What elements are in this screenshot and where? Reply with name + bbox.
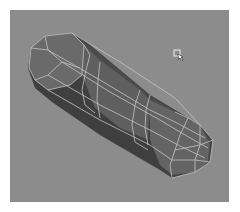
arrow-pointer-icon: [173, 49, 185, 61]
3d-viewport[interactable]: [10, 10, 229, 202]
capsule-mesh[interactable]: [10, 10, 229, 202]
